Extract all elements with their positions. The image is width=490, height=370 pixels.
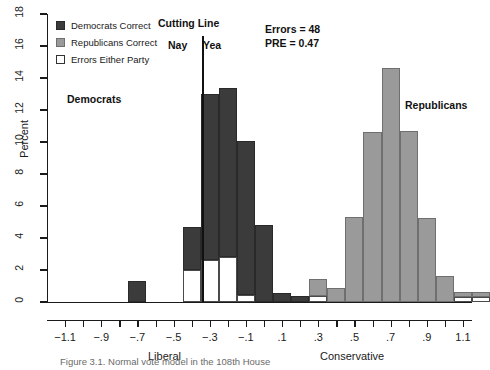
bar-segment-republicans (454, 292, 472, 297)
y-axis-tick (40, 45, 47, 46)
bar-segment-republicans (400, 131, 418, 302)
legend-item-errors-either-party: Errors Either Party (56, 52, 157, 67)
histogram-bar (345, 217, 363, 302)
legend-swatch-icon-republicans (56, 38, 65, 47)
y-axis-tick-label: 8 (2, 166, 36, 178)
bar-segment-errors (454, 297, 472, 302)
x-axis-tick (264, 321, 265, 327)
x-axis-tick (83, 321, 84, 327)
x-axis-tick-label: −.9 (93, 331, 109, 343)
legend: Democrats Correct Republicans Correct Er… (56, 18, 157, 69)
annotation-cutting-line: Cutting Line (158, 17, 219, 29)
bar-segment-republicans (382, 68, 400, 302)
x-axis-tick (228, 321, 229, 327)
annotation-yea: Yea (203, 39, 221, 51)
x-axis-tick (65, 321, 66, 327)
histogram-bar (400, 131, 418, 302)
x-axis-tick (445, 321, 446, 327)
y-axis-tick (40, 237, 47, 238)
legend-item-republicans-correct: Republicans Correct (56, 35, 157, 50)
histogram-bar (183, 227, 201, 302)
x-axis-tick (192, 321, 193, 327)
bar-segment-republicans (327, 288, 345, 302)
histogram-bar (382, 68, 400, 302)
histogram-bar (418, 218, 436, 302)
y-axis-tick (40, 77, 47, 78)
x-axis-tick (174, 321, 175, 327)
x-axis-tick (373, 321, 374, 327)
bar-segment-democrats (273, 293, 291, 302)
y-axis-tick-label: 6 (2, 198, 36, 210)
x-axis-tick (119, 321, 120, 327)
bar-segment-republicans (472, 292, 490, 297)
histogram-bar (309, 279, 327, 302)
y-axis-tick (40, 13, 47, 14)
legend-swatch-icon-democrats (56, 21, 65, 30)
x-axis-tick-label: .5 (350, 331, 359, 343)
x-axis-tick-label: .3 (314, 331, 323, 343)
chart-root: 024681012141618 Percent −1.1−.9−.7−.5−.3… (0, 0, 490, 370)
bar-segment-errors (237, 295, 255, 302)
y-axis-tick-label: 4 (2, 230, 36, 242)
bar-segment-errors (183, 270, 201, 302)
bar-segment-errors (309, 296, 327, 302)
bar-segment-republicans (436, 276, 454, 302)
histogram-bar (472, 292, 490, 302)
annotation-democrats: Democrats (67, 93, 121, 105)
bar-segment-democrats (237, 141, 255, 295)
bar-segment-democrats (255, 225, 273, 302)
histogram-bar (436, 276, 454, 302)
x-axis-tick-label: .1 (278, 331, 287, 343)
x-axis-tick (246, 321, 247, 327)
bar-segment-democrats (183, 227, 201, 270)
y-axis-tick-label: 16 (2, 38, 36, 50)
y-axis-tick-label: 14 (2, 70, 36, 82)
y-axis-tick-label: 0 (2, 294, 36, 306)
y-axis-tick (40, 173, 47, 174)
x-axis-tick (101, 321, 102, 327)
bar-segment-democrats (128, 281, 146, 302)
cutting-line (202, 36, 204, 302)
x-axis-tick-label: −.3 (202, 331, 218, 343)
annotation-errors: Errors = 48 (265, 23, 320, 35)
y-axis-tick-label: 2 (2, 262, 36, 274)
histogram-bar (363, 132, 381, 302)
annotation-republicans: Republicans (405, 99, 467, 111)
y-axis-tick (40, 109, 47, 110)
x-axis-tick (210, 321, 211, 327)
y-axis-title-text: Percent (18, 120, 30, 158)
bar-segment-republicans (345, 217, 363, 302)
histogram-bar (255, 225, 273, 302)
y-axis-tick-label: 12 (2, 102, 36, 114)
legend-label-democrats: Democrats Correct (71, 20, 151, 31)
x-axis-tick (282, 321, 283, 327)
y-axis-tick (40, 205, 47, 206)
x-axis-tick (156, 321, 157, 327)
x-axis-tick-label: 1.1 (455, 331, 470, 343)
x-axis-tick (427, 321, 428, 327)
legend-item-democrats-correct: Democrats Correct (56, 18, 157, 33)
x-axis-tick-label: .7 (386, 331, 395, 343)
annotation-pre: PRE = 0.47 (265, 37, 319, 49)
histogram-bar (128, 281, 146, 302)
figure-caption: Figure 3.1. Normal vote model in the 108… (60, 356, 480, 367)
histogram-bar (454, 292, 472, 302)
y-axis-tick-label: 18 (2, 6, 36, 18)
histogram-bar (237, 141, 255, 302)
bar-segment-republicans (309, 279, 327, 296)
histogram-bar (327, 288, 345, 302)
bar-segment-democrats (291, 296, 309, 302)
x-axis-tick (463, 321, 464, 327)
x-axis-tick-label: −.7 (130, 331, 146, 343)
histogram-bar (291, 296, 309, 302)
legend-label-republicans: Republicans Correct (71, 37, 157, 48)
bar-segment-errors (472, 297, 490, 302)
bar-segment-republicans (418, 218, 436, 302)
bar-segment-republicans (363, 132, 381, 302)
bar-segment-errors (219, 257, 237, 302)
x-axis-tick (391, 321, 392, 327)
y-axis-title: Percent (0, 133, 54, 145)
x-axis-tick (137, 321, 138, 327)
x-axis-tick (318, 321, 319, 327)
x-axis-baseline (47, 302, 472, 303)
